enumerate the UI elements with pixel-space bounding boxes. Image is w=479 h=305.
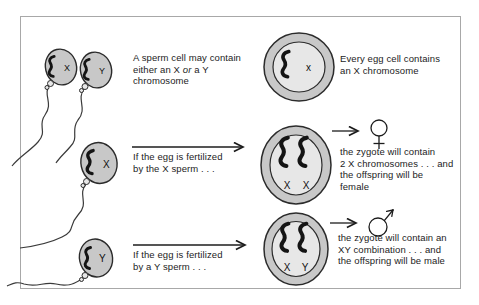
female-symbol-icon <box>371 120 387 149</box>
zygote-xy-left-label: X <box>284 262 291 273</box>
sperm-tail <box>7 277 84 286</box>
sperm-neck <box>45 86 49 90</box>
caption-line: the offspring will be male <box>338 255 447 267</box>
caption-line: If the egg is fertilized <box>133 249 223 261</box>
sperm-tail <box>56 89 84 163</box>
egg-x-label: x <box>306 62 311 73</box>
caption-line: XY combination . . . and <box>338 244 447 256</box>
zygote-xy-right-label: Y <box>302 262 309 273</box>
caption-line: female <box>340 181 453 193</box>
zygote-xx-right-label: X <box>303 180 310 191</box>
sperm-neck <box>80 278 84 282</box>
zygote-xx-left-label: X <box>284 180 291 191</box>
egg-cell: x <box>264 33 334 101</box>
fertilized-by-y-caption: If the egg is fertilized by a Y sperm . … <box>133 249 223 272</box>
caption-line: the zygote will contain <box>340 146 453 158</box>
caption-line: by a Y sperm . . . <box>133 261 223 273</box>
caption-line: Every egg cell contains <box>340 53 440 65</box>
female-result-caption: the zygote will contain 2 X chromosomes … <box>340 146 453 192</box>
sperm-x-label: X <box>103 159 110 170</box>
figure-canvas: { "colors": { "page_bg": "#ffffff", "pan… <box>0 0 479 305</box>
caption-line: A sperm cell may contain <box>133 52 241 64</box>
sperm-cell-y-row3: Y <box>7 236 116 286</box>
zygote-xx: X X <box>261 126 331 204</box>
caption-line: 2 X chromosomes . . . and <box>340 158 453 170</box>
sperm-caption: A sperm cell may contain either an X or … <box>133 52 241 87</box>
zygote-xy: X Y <box>264 213 328 285</box>
caption-line: either an X or a Y <box>133 64 241 76</box>
sperm-tail <box>12 84 50 166</box>
sperm-cell-x-row2: X <box>20 139 121 248</box>
caption-line: by the X sperm . . . <box>133 163 223 175</box>
sperm-y-label: Y <box>99 66 105 76</box>
egg-caption: Every egg cell contains an X chromosome <box>340 53 440 76</box>
sperm-x-label: X <box>64 63 70 73</box>
fertilized-by-x-caption: If the egg is fertilized by the X sperm … <box>133 151 223 174</box>
sperm-y-label: Y <box>99 253 106 264</box>
sperm-neck <box>81 184 85 188</box>
caption-line: an X chromosome <box>340 65 440 77</box>
caption-line: the zygote will contain an <box>338 232 447 244</box>
sperm-cell-x: X <box>12 46 80 166</box>
sperm-tail <box>20 184 86 248</box>
male-result-caption: the zygote will contain an XY combinatio… <box>338 232 447 267</box>
sperm-neck <box>80 89 84 93</box>
caption-line: the offspring will be <box>340 169 453 181</box>
caption-line: If the egg is fertilized <box>133 151 223 163</box>
caption-line: chromosome <box>133 75 241 87</box>
